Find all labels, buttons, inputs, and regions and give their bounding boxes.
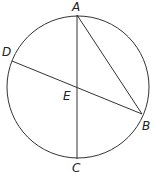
geometry-diagram: A B C D E bbox=[0, 0, 155, 173]
label-d: D bbox=[2, 45, 11, 59]
chord-ab bbox=[77, 15, 142, 114]
label-b: B bbox=[142, 119, 150, 133]
label-a: A bbox=[71, 0, 80, 14]
label-c: C bbox=[72, 161, 81, 173]
label-e: E bbox=[63, 89, 71, 103]
circle bbox=[7, 16, 149, 158]
